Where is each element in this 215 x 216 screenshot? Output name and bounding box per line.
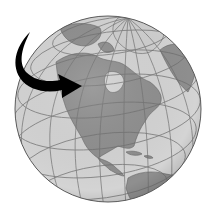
globe-illustration — [0, 0, 215, 216]
